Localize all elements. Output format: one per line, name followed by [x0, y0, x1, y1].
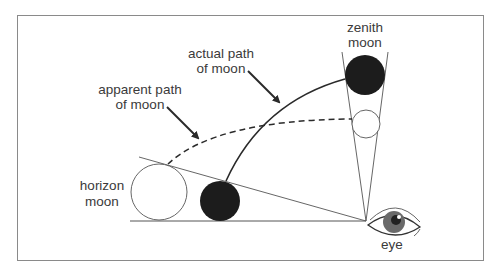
zenith-moon-label-line1: zenith [347, 20, 383, 35]
eye-label: eye [381, 237, 403, 252]
apparent-path-label-line1: apparent path [98, 82, 181, 97]
apparent-path-label-line2: of moon [116, 97, 165, 112]
horizon-moon-label-line1: horizon [80, 178, 124, 193]
zenith-moon-label-line2: moon [348, 35, 382, 50]
zenith-moon-circle [345, 55, 385, 95]
moon-illusion-diagram: actual path of moon apparent path of moo… [0, 0, 498, 275]
actual-path-label-line1: actual path [188, 46, 254, 61]
horizon-moon-label-line2: moon [85, 194, 119, 209]
apparent-zenith-moon-circle [352, 110, 380, 138]
actual-path-label-line2: of moon [197, 61, 246, 76]
horizon-moon-circle [131, 164, 187, 220]
actual-horizon-moon-circle [200, 181, 240, 221]
